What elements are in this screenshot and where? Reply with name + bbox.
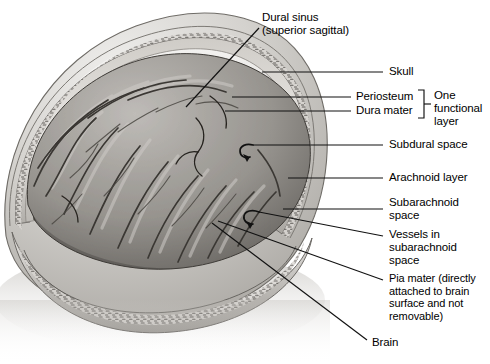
leader-dural-sinus — [186, 28, 259, 107]
leader-vessels-subarachnoid — [259, 212, 383, 236]
label-pia-mater: Pia mater (directlyattached to brainsurf… — [389, 272, 476, 322]
hook-arrow-subdural — [240, 144, 253, 162]
hook-arrow-vessels — [244, 211, 259, 229]
label-periosteum: Periosteum — [356, 90, 413, 103]
label-one-functional-layer: Onefunctionallayer — [434, 89, 482, 129]
label-subarachnoid-space: Subarachnoidspace — [389, 196, 459, 222]
label-vessels-in-subarachnoid-space: Vessels insubarachnoidspace — [389, 228, 457, 268]
leader-pia-mater — [218, 221, 383, 280]
label-subdural-space: Subdural space — [389, 138, 468, 151]
one-functional-layer-bracket — [418, 90, 431, 118]
label-arachnoid-layer: Arachnoid layer — [389, 171, 467, 184]
label-dura-mater: Dura mater — [356, 104, 413, 117]
label-brain: Brain — [372, 336, 398, 349]
leader-brain — [212, 223, 367, 340]
figure-canvas: Dural sinus(superior sagittal) Skull Per… — [0, 0, 490, 364]
label-dural-sinus: Dural sinus(superior sagittal) — [262, 11, 349, 37]
label-skull: Skull — [389, 65, 413, 78]
